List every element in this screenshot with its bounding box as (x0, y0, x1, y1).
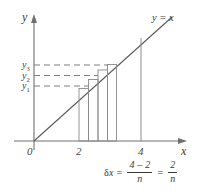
equation-delta-var: x (109, 167, 114, 178)
strip-3 (98, 70, 108, 141)
delta-x-equation: δx = 4 – 2 n = 2 n (104, 160, 179, 184)
equation-fraction-1-numerator: 4 – 2 (127, 160, 152, 172)
equation-equals-1: = (117, 167, 123, 178)
strip-2 (89, 80, 99, 142)
x-axis-label: x (181, 145, 186, 157)
equation-fraction-2-denominator: n (168, 173, 177, 185)
riemann-sum-figure: y x 0 2 4 y3 y2 y1 y = x δx = 4 – 2 n = … (0, 0, 200, 192)
y-axis-label: y (22, 11, 27, 23)
equation-fraction-1-denominator: n (135, 173, 144, 185)
y-axis-arrow-icon (31, 14, 37, 23)
strip-4 (108, 65, 117, 142)
y-value-label-y1: y1 (22, 81, 30, 94)
origin-label: 0 (27, 146, 33, 157)
equation-fraction-1: 4 – 2 n (127, 160, 152, 184)
y-axis (31, 14, 37, 150)
equation-fraction-2-numerator: 2 (168, 160, 177, 172)
line-y-equals-x (34, 17, 172, 141)
x-tick-label-2: 2 (76, 146, 82, 157)
curve-label: y = x (152, 13, 174, 24)
y-value-label-y1-sub: 1 (26, 86, 29, 93)
equation-equals-2: = (157, 167, 163, 178)
dashed-guides (34, 65, 108, 86)
equation-fraction-2: 2 n (168, 160, 177, 184)
x-tick-label-4: 4 (138, 146, 144, 157)
